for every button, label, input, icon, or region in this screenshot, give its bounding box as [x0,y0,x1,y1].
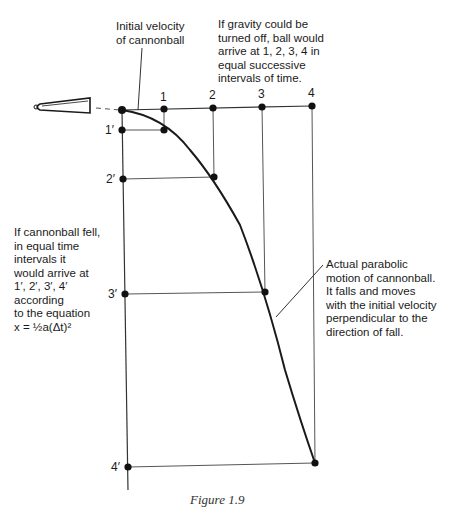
horizontal-axis [122,106,312,110]
point-label-2: 2 [209,89,216,102]
gravity-off-label: If gravity could be turned off, ball wou… [218,18,324,86]
point-label-2-prime: 2′ [106,173,115,186]
label-line: would arrive at [14,267,100,281]
label-line: intervals of time. [218,72,324,86]
label-line: to the equation [14,307,100,321]
parabolic-motion-label: Actual parabolic motion of cannonball. I… [326,258,437,339]
label-line: equal successive [218,59,324,73]
cannon-icon [34,98,90,113]
label-line: If gravity could be [218,18,324,32]
parabolic-pointer-line [276,265,323,317]
label-line: If cannonball fell, [14,226,100,240]
label-line: Initial velocity [116,20,184,34]
label-line: turned off, ball would [218,32,324,46]
label-line: with the initial velocity [326,299,437,313]
label-line: perpendicular to the [326,312,437,326]
label-line: Actual parabolic [326,258,437,272]
label-line: arrive at 1, 2, 3, 4 in [218,45,324,59]
equation-line: x = ½a(Δt)² [14,321,100,335]
point-label-3: 3 [258,88,265,101]
vertical-grid-lines [164,106,315,463]
figure-caption: Figure 1.9 [190,492,244,508]
label-line: direction of fall. [326,326,437,340]
velocity-pointer-line [138,48,142,110]
label-line: intervals it [14,253,100,267]
parabolic-trajectory [122,110,315,463]
label-line: motion of cannonball. [326,272,437,286]
point-label-1: 1 [160,91,167,104]
point-label-1-prime: 1′ [105,124,114,137]
horizontal-grid-lines [122,130,315,467]
launch-dashed-line [96,108,120,110]
point-label-3-prime: 3′ [108,288,117,301]
initial-velocity-label: Initial velocity of cannonball [116,20,184,47]
fall-equation-label: If cannonball fell, in equal time interv… [14,226,100,334]
label-line: of cannonball [116,34,184,48]
point-label-4: 4 [308,87,315,100]
label-line: in equal time [14,240,100,254]
position-dots [118,102,319,470]
label-line: It falls and moves [326,285,437,299]
vertical-axis [122,110,128,490]
label-line: according [14,294,100,308]
point-label-4-prime: 4′ [111,461,120,474]
label-line: 1′, 2′, 3′, 4′ [14,280,100,294]
